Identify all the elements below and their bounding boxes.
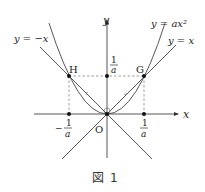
x-axis-label: x [183,108,190,121]
svg-text:a: a [65,129,70,139]
svg-text:1: 1 [66,118,72,128]
point-G-label: G [136,64,144,75]
point-origin [105,112,109,116]
figure-1-diagram: y x O H G y = ax² y = x y = −x 1 a 1 a −… [0,0,205,192]
line-y-equals-x [62,45,176,159]
x-pos-tick-fraction: 1 a [140,118,148,139]
caption-number: 1 [110,171,118,185]
x-neg-tick-fraction: − 1 a [55,118,72,139]
point-x-neg-tick [67,112,71,116]
point-H-label: H [69,64,78,75]
svg-text:1: 1 [142,118,148,128]
direction-marks [86,92,127,95]
point-y-tick [105,74,109,78]
y-axis-label: y [102,14,110,27]
caption-kanji: 図 [92,171,104,185]
figure-caption: 図 1 [92,171,118,185]
point-x-pos-tick [142,112,146,116]
svg-text:−: − [55,123,63,133]
origin-label: O [95,124,103,135]
y-tick-fraction: 1 a [110,55,118,75]
line-neg-label: y = −x [13,33,49,44]
svg-text:a: a [141,129,146,139]
svg-text:a: a [111,65,116,75]
svg-text:1: 1 [111,55,117,65]
line-pos-label: y = x [167,35,194,46]
points [67,74,146,116]
parabola-label: y = ax² [150,18,187,29]
